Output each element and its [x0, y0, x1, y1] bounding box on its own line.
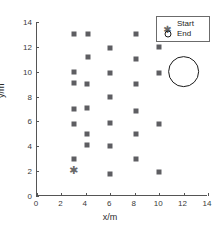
data-point: [71, 69, 76, 74]
y-tick: [36, 47, 39, 48]
legend-item-end: End: [160, 29, 207, 39]
x-tick-label: 14: [203, 199, 212, 208]
data-point: [108, 70, 113, 75]
y-tick: [36, 121, 39, 122]
y-tick: [36, 196, 39, 197]
x-tick-label: 12: [178, 199, 187, 208]
data-point: [86, 32, 91, 37]
data-point: [108, 120, 113, 125]
data-point: [71, 80, 76, 85]
data-point: [133, 156, 138, 161]
data-point: [157, 70, 162, 75]
end-marker: [168, 56, 200, 88]
y-tick-label: 14: [23, 18, 32, 27]
legend-item-start: ✱ Start: [160, 19, 207, 29]
data-point: [133, 109, 138, 114]
y-tick: [36, 22, 39, 23]
y-tick-label: 12: [23, 42, 32, 51]
data-point: [133, 82, 138, 87]
data-point: [85, 105, 90, 110]
x-tick: [159, 193, 160, 196]
x-axis-label: x/m: [0, 212, 220, 222]
x-tick: [110, 193, 111, 196]
data-point: [108, 171, 113, 176]
x-tick-label: 10: [154, 199, 163, 208]
y-tick: [36, 97, 39, 98]
x-tick: [135, 193, 136, 196]
scatter-plot-figure: y/m x/m 02468101214 02468101214 ✱ ✱ Star…: [0, 0, 220, 236]
data-point: [71, 32, 76, 37]
data-point: [71, 156, 76, 161]
y-tick-label: 6: [28, 117, 32, 126]
y-tick-label: 10: [23, 67, 32, 76]
data-point: [157, 121, 162, 126]
data-point: [71, 121, 76, 126]
x-tick-label: 0: [34, 199, 38, 208]
legend: ✱ Start End: [156, 16, 210, 42]
data-point: [157, 44, 162, 49]
y-axis-label: y/m: [0, 84, 6, 99]
data-point: [108, 94, 113, 99]
y-tick-label: 4: [28, 142, 32, 151]
x-tick-label: 6: [107, 199, 111, 208]
data-point: [85, 131, 90, 136]
data-point: [133, 131, 138, 136]
data-point: [133, 57, 138, 62]
data-point: [157, 170, 162, 175]
y-tick-label: 8: [28, 92, 32, 101]
legend-label-start: Start: [175, 19, 194, 29]
data-point: [108, 144, 113, 149]
data-point: [85, 143, 90, 148]
asterisk-icon: ✱: [160, 19, 175, 29]
plot-area: ✱: [36, 22, 207, 196]
y-tick: [36, 146, 39, 147]
x-tick-label: 8: [131, 199, 135, 208]
x-tick: [208, 193, 209, 196]
start-marker: ✱: [68, 165, 80, 177]
y-tick-label: 2: [28, 167, 32, 176]
data-point: [71, 107, 76, 112]
data-point: [85, 82, 90, 87]
x-tick-label: 2: [58, 199, 62, 208]
data-point: [108, 46, 113, 51]
data-point: [86, 54, 91, 59]
x-tick-label: 4: [83, 199, 87, 208]
x-tick: [184, 193, 185, 196]
y-tick-label: 0: [28, 192, 32, 201]
circle-icon: [160, 29, 175, 39]
y-tick: [36, 72, 39, 73]
x-tick: [86, 193, 87, 196]
data-point: [133, 32, 138, 37]
y-tick: [36, 171, 39, 172]
legend-label-end: End: [175, 29, 191, 39]
x-tick: [61, 193, 62, 196]
